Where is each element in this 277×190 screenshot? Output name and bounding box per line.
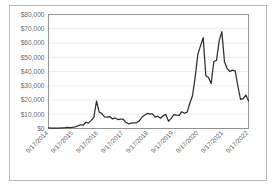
gridlines bbox=[49, 15, 249, 129]
x-tick-label: 9/17/2015 bbox=[49, 129, 74, 154]
x-tick-label: 9/17/2019 bbox=[149, 129, 174, 154]
y-tick-label: $80,000 bbox=[21, 11, 45, 18]
x-tick-label: 9/17/2020 bbox=[174, 129, 199, 154]
y-tick-label: $70,000 bbox=[21, 25, 45, 32]
y-tick-label: $10,000 bbox=[21, 111, 45, 118]
y-tick-label: $20,000 bbox=[21, 96, 45, 103]
y-tick-label: $30,000 bbox=[21, 82, 45, 89]
bitcoin-price-chart: $0$10,000$20,000$30,000$40,000$50,000$60… bbox=[0, 0, 277, 190]
y-tick-label: $50,000 bbox=[21, 54, 45, 61]
y-tick-label: $60,000 bbox=[21, 39, 45, 46]
price-line-series bbox=[49, 32, 249, 129]
y-tick-label: $40,000 bbox=[21, 68, 45, 75]
x-tick-label: 9/17/2017 bbox=[99, 129, 124, 154]
y-axis-tick-labels: $0$10,000$20,000$30,000$40,000$50,000$60… bbox=[21, 11, 45, 132]
x-tick-label: 9/17/2016 bbox=[74, 129, 99, 154]
x-tick-label: 9/17/2014 bbox=[24, 129, 49, 154]
chart-canvas: $0$10,000$20,000$30,000$40,000$50,000$60… bbox=[0, 0, 277, 190]
x-tick-label: 9/17/2022 bbox=[224, 129, 249, 154]
x-axis-tick-labels: 9/17/20149/17/20159/17/20169/17/20179/17… bbox=[24, 129, 249, 154]
x-tick-label: 9/17/2018 bbox=[124, 129, 149, 154]
x-tick-label: 9/17/2021 bbox=[199, 129, 224, 154]
